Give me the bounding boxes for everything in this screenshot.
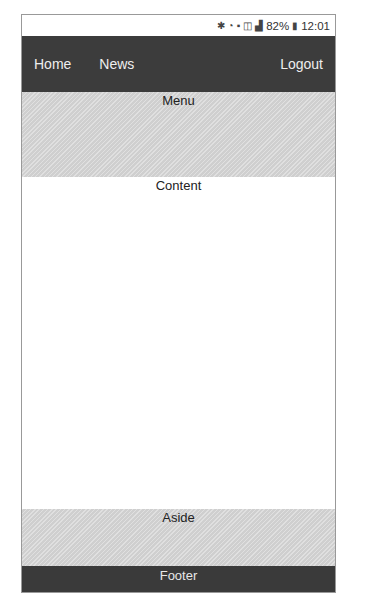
aside-label: Aside: [22, 509, 335, 525]
bluetooth-icon: ✱: [217, 20, 225, 31]
menu-section: Menu: [22, 92, 335, 177]
battery-percent: 82%: [266, 20, 289, 32]
battery-icon: ▮: [292, 20, 298, 31]
wifi-icon: ◔: [228, 20, 234, 31]
menu-label: Menu: [22, 92, 335, 108]
nav-news-link[interactable]: News: [99, 56, 134, 72]
nav-home-link[interactable]: Home: [34, 56, 71, 72]
sim-icon: ▪: [237, 20, 241, 31]
phone-frame: ✱ ◔ ▪ ◫ ▟ 82% ▮ 12:01 Home News Logout M…: [21, 14, 336, 593]
status-bar: ✱ ◔ ▪ ◫ ▟ 82% ▮ 12:01: [22, 15, 335, 36]
top-nav: Home News Logout: [22, 36, 335, 92]
clock: 12:01: [301, 20, 330, 32]
content-section: Content: [22, 177, 335, 509]
logout-link[interactable]: Logout: [280, 56, 323, 72]
footer-label: Footer: [22, 566, 335, 585]
footer-section: Footer: [22, 566, 335, 593]
content-label: Content: [22, 177, 335, 193]
data-icon: ◫: [243, 20, 252, 31]
signal-icon: ▟: [255, 20, 263, 31]
aside-section: Aside: [22, 509, 335, 566]
